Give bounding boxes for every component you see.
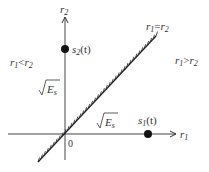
boundary-label: r1=r2: [146, 20, 169, 34]
svg-text:Es: Es: [46, 83, 57, 97]
region-r1-less-r2-label: r1<r2: [10, 56, 33, 70]
decision-region-diagram: r1 r2 0 s1(t) s2(t) r1=r2 r1<r2 r1>r2 Es…: [0, 0, 209, 172]
point-s2: [61, 45, 69, 53]
point-s1: [144, 130, 152, 138]
x-axis-label: r1: [180, 128, 188, 142]
region-r1-greater-r2-label: r1>r2: [175, 54, 198, 68]
x-tick-sqrt-es: Es: [97, 113, 118, 130]
s1-label: s1(t): [138, 114, 157, 128]
y-axis-label: r2: [60, 3, 68, 17]
y-tick-sqrt-es: Es: [39, 80, 60, 97]
s2-label: s2(t): [72, 43, 91, 57]
origin-label: 0: [68, 138, 73, 149]
svg-text:Es: Es: [104, 116, 115, 130]
